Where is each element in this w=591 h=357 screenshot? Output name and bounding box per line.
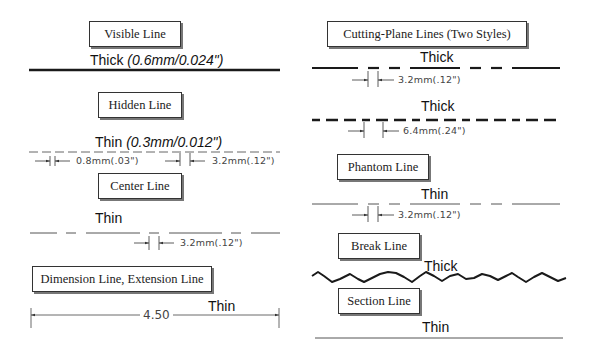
break-line-label: Break Line (338, 233, 420, 259)
section-line-label: Section Line (338, 288, 420, 314)
cutting-plane-style2-dimension-label: 6.4mm(.24") (403, 126, 466, 136)
cutting-plane-label: Cutting-Plane Lines (Two Styles) (327, 21, 527, 47)
cutting-plane-style2-weight: Thick (421, 99, 454, 113)
visible-line-weight: Thick (0.6mm/0.024") (90, 53, 223, 67)
phantom-gap-dimension (352, 206, 394, 222)
cutting-plane-style1-dimension-label: 3.2mm(.12") (398, 75, 461, 85)
hidden-gap-dimension (35, 156, 70, 166)
hidden-line-spec: (0.3mm/0.012") (126, 134, 222, 150)
phantom-line-weight: Thin (421, 187, 448, 201)
visible-line-weight-text: Thick (90, 52, 123, 68)
hidden-gap-dimension-label: 0.8mm(.03") (76, 156, 139, 166)
visible-line-label: Visible Line (89, 21, 181, 47)
break-line-weight: Thick (424, 259, 457, 273)
center-gap-dimension (134, 236, 174, 250)
center-line-label: Center Line (98, 173, 182, 199)
line-types-diagram (0, 0, 591, 357)
section-line-weight: Thin (422, 320, 449, 334)
hidden-line-weight-text: Thin (95, 134, 122, 150)
hidden-dash-dimension-label: 3.2mm(.12") (212, 156, 275, 166)
center-gap-dimension-label: 3.2mm(.12") (180, 238, 243, 248)
dimension-line-label: Dimension Line, Extension Line (32, 266, 212, 292)
cutting-plane-style1-weight: Thick (420, 50, 453, 64)
hidden-line-label: Hidden Line (98, 92, 182, 118)
cutting-plane-style1-dimension (352, 71, 394, 87)
hidden-line-weight: Thin (0.3mm/0.012") (95, 135, 222, 149)
dimension-line-weight: Thin (208, 299, 235, 313)
phantom-line-label: Phantom Line (337, 154, 429, 180)
hidden-dash-dimension (165, 153, 205, 166)
phantom-gap-dimension-label: 3.2mm(.12") (398, 210, 461, 220)
dimension-value: 4.50 (140, 309, 173, 321)
visible-line-spec: (0.6mm/0.024") (127, 52, 223, 68)
center-line-weight: Thin (95, 211, 122, 225)
cutting-plane-style2-dimension (348, 122, 399, 138)
